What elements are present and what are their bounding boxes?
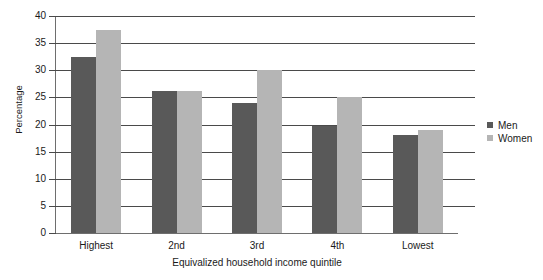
x-axis-title: Equivalized household income quintile (56, 257, 458, 268)
bar-men-3rd (232, 103, 257, 233)
y-axis-label: 30 (20, 65, 46, 75)
y-axis-tick (49, 70, 56, 71)
legend-swatch-women-icon (487, 135, 493, 141)
bar-women-highest (96, 30, 121, 233)
legend-item-men: Men (487, 119, 532, 131)
y-axis-tick (49, 16, 56, 17)
bar-women-3rd (257, 70, 282, 233)
legend-item-women: Women (487, 132, 532, 144)
y-axis-label: 25 (20, 92, 46, 102)
bar-men-lowest (393, 135, 418, 233)
y-axis-label: 0 (20, 228, 46, 238)
y-axis-tick (49, 43, 56, 44)
y-axis-tick (49, 125, 56, 126)
y-axis-label: 35 (20, 38, 46, 48)
bar-women-4th (337, 97, 362, 233)
y-axis-tick (49, 206, 56, 207)
plot-area: 0510152025303540 (56, 16, 458, 233)
bar-women-2nd (177, 91, 202, 233)
legend-label-men: Men (498, 120, 517, 131)
bar-men-highest (71, 57, 96, 233)
x-axis-label-lowest: Lowest (368, 240, 468, 251)
y-axis-tick (49, 152, 56, 153)
x-axis-line (56, 233, 458, 234)
bar-men-2nd (152, 91, 177, 233)
y-axis-label: 10 (20, 174, 46, 184)
y-axis-label: 40 (20, 11, 46, 21)
bar-women-lowest (418, 130, 443, 233)
y-axis-label: 20 (20, 120, 46, 130)
grid-line (56, 16, 475, 17)
legend-swatch-men-icon (487, 122, 493, 128)
y-axis-tick (49, 233, 56, 234)
legend-label-women: Women (498, 133, 532, 144)
bar-chart: Percentage 0510152025303540 Equivalized … (0, 0, 543, 280)
y-axis-label: 15 (20, 147, 46, 157)
y-axis-tick (49, 179, 56, 180)
bar-men-4th (312, 126, 337, 233)
y-axis-tick (49, 97, 56, 98)
legend: Men Women (487, 119, 532, 145)
y-axis-label: 5 (20, 201, 46, 211)
